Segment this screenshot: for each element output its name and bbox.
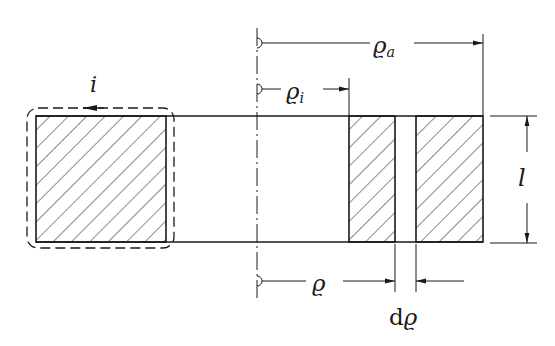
diagram-svg xyxy=(0,0,555,346)
outer-radius-symbol: ϱ xyxy=(373,32,387,58)
radius-label: ϱ xyxy=(312,272,326,295)
outer-radius-origin-icon xyxy=(257,38,262,48)
inner-radius-subscript: i xyxy=(300,90,305,106)
element-width-d: d xyxy=(389,304,404,330)
outer-radius-subscript: a xyxy=(387,44,396,60)
element-width-label: dϱ xyxy=(389,306,417,329)
diagram-canvas: i ϱa ϱi ϱ l dϱ xyxy=(0,0,555,346)
length-label: l xyxy=(518,166,526,190)
outer-radius-label: ϱa xyxy=(373,34,395,59)
outer-hatched-section xyxy=(416,116,483,242)
radius-origin-icon xyxy=(257,276,262,286)
left-cross-section xyxy=(36,116,166,242)
inner-hatched-section xyxy=(349,116,395,242)
element-width-rho: ϱ xyxy=(404,304,418,330)
inner-radius-symbol: ϱ xyxy=(286,78,300,104)
inner-radius-origin-icon xyxy=(257,84,262,94)
inner-radius-label: ϱi xyxy=(286,80,304,105)
current-label: i xyxy=(90,74,97,96)
